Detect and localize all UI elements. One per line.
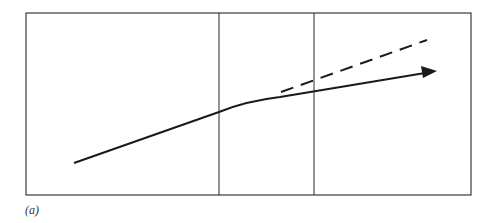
arrowhead-icon [421, 66, 437, 78]
figure-caption: (a) [25, 203, 39, 218]
diagram [0, 0, 494, 223]
solid-trajectory [74, 73, 425, 163]
frame [26, 13, 471, 195]
